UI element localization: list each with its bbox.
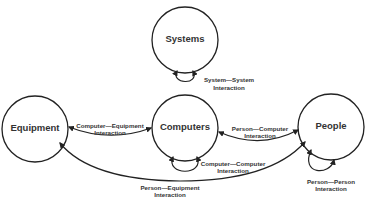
equipment-label: Equipment [10,122,60,133]
node-computers: Computers [152,95,218,161]
edge-person-computer: Person—Computer Interaction [219,125,298,141]
people-label: People [315,120,346,131]
computers-label: Computers [160,121,210,132]
node-equipment: Equipment [2,96,68,162]
systems-label: Systems [165,33,204,44]
person-equipment-label-line1: Person—Equipment [140,184,199,191]
computer-equipment-label-line1: Computer—Equipment [76,122,143,129]
edge-system-system: System—System Interaction [176,71,255,91]
computer-computer-label-line1: Computer—Computer [201,160,266,167]
person-computer-label-line1: Person—Computer [232,125,289,132]
person-person-label-line2: Interaction [315,185,347,192]
computer-computer-label-line2: Interaction [217,167,249,174]
node-systems: Systems [152,7,218,73]
node-people: People [298,94,364,160]
edge-computer-equipment: Computer—Equipment Interaction [69,122,151,136]
system-system-label-line1: System—System [204,76,255,83]
person-computer-label-line2: Interaction [244,132,276,139]
interaction-diagram: Systems Equipment Computers People Syste… [0,0,367,200]
system-system-label-line2: Interaction [213,84,245,91]
person-equipment-label-line2: Interaction [154,191,186,198]
computer-equipment-label-line2: Interaction [94,129,126,136]
person-person-label-line1: Person—Person [307,178,355,185]
